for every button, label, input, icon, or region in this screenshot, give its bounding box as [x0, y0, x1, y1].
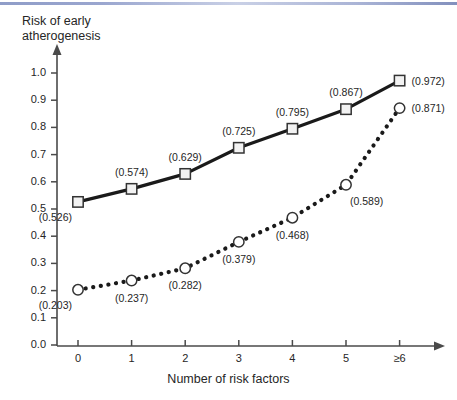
data-point-marker — [394, 103, 404, 113]
data-point-value-label: (0.867) — [329, 86, 362, 98]
data-point-marker — [287, 213, 297, 223]
data-point-marker — [341, 180, 351, 190]
data-point-marker — [287, 124, 297, 134]
data-point-marker — [394, 75, 404, 85]
y-axis-tick-label: 0.0 — [14, 338, 46, 350]
data-point-value-label: (0.526) — [39, 211, 72, 223]
y-axis-title: Risk of early atherogenesis — [22, 14, 101, 44]
data-point-value-label: (0.629) — [169, 151, 202, 163]
x-axis-tick-label: ≥6 — [383, 352, 417, 364]
data-point-marker — [341, 104, 351, 114]
y-axis-tick-label: 0.8 — [14, 120, 46, 132]
chart-figure: Risk of early atherogenesis Number of ri… — [0, 0, 457, 400]
data-point-value-label: (0.725) — [222, 125, 255, 137]
x-axis-tick-label: 1 — [115, 352, 149, 364]
chart-plot-area — [0, 0, 457, 400]
y-axis-tick-label: 0.1 — [14, 311, 46, 323]
x-axis-tick-label: 3 — [222, 352, 256, 364]
y-axis-title-line-2: atherogenesis — [22, 29, 101, 44]
x-axis-tick-label: 2 — [168, 352, 202, 364]
y-axis-tick-label: 1.0 — [14, 66, 46, 78]
data-point-marker — [180, 169, 190, 179]
y-axis-title-line-1: Risk of early — [22, 14, 101, 29]
data-point-value-label: (0.379) — [222, 253, 255, 265]
data-point-marker — [126, 184, 136, 194]
data-point-value-label: (0.282) — [169, 279, 202, 291]
y-axis-arrowhead — [53, 44, 62, 55]
x-axis-ticks — [78, 340, 400, 346]
y-axis-tick-label: 0.4 — [14, 229, 46, 241]
y-axis-tick-label: 0.2 — [14, 284, 46, 296]
data-point-value-label: (0.871) — [412, 102, 445, 114]
y-axis-tick-label: 0.3 — [14, 256, 46, 268]
y-axis-tick-label: 0.9 — [14, 93, 46, 105]
data-point-value-label: (0.795) — [276, 106, 309, 118]
x-axis-tick-label: 0 — [61, 352, 95, 364]
data-point-marker — [73, 197, 83, 207]
data-point-value-label: (0.468) — [276, 229, 309, 241]
data-point-value-label: (0.574) — [115, 166, 148, 178]
data-point-marker — [234, 143, 244, 153]
data-point-marker — [180, 263, 190, 273]
x-axis-tick-label: 4 — [275, 352, 309, 364]
data-point-value-label: (0.589) — [350, 195, 383, 207]
data-point-value-label: (0.203) — [39, 299, 72, 311]
x-axis-title: Number of risk factors — [0, 372, 457, 387]
x-axis-tick-label: 5 — [329, 352, 363, 364]
data-point-marker — [234, 237, 244, 247]
data-point-marker — [126, 275, 136, 285]
data-point-marker — [73, 285, 83, 295]
data-point-value-label: (0.972) — [412, 75, 445, 87]
y-axis-tick-label: 0.6 — [14, 175, 46, 187]
x-axis-arrowhead — [434, 342, 445, 351]
data-point-value-label: (0.237) — [115, 292, 148, 304]
y-axis-tick-label: 0.7 — [14, 148, 46, 160]
